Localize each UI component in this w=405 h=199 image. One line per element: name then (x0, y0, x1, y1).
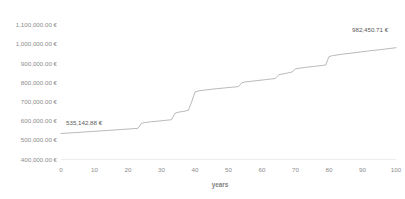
y-tick-label: 900,000.00 € (21, 60, 58, 67)
x-tick-label: 100 (391, 166, 402, 173)
end-value-label: 982,450.71 € (352, 26, 389, 33)
x-tick-label: 30 (158, 166, 165, 173)
start-value-label: 535,142.88 € (66, 119, 103, 126)
y-tick-label: 600,000.00 € (21, 117, 58, 124)
x-tick-label: 80 (326, 166, 333, 173)
x-tick-label: 10 (91, 166, 98, 173)
y-tick-label: 500,000.00 € (21, 136, 58, 143)
x-tick-label: 60 (259, 166, 266, 173)
x-tick-label: 70 (292, 166, 299, 173)
y-tick-label: 800,000.00 € (21, 79, 58, 86)
y-tick-label: 700,000.00 € (21, 98, 58, 105)
x-tick-label: 20 (125, 166, 132, 173)
y-tick-label: 400,000.00 € (21, 156, 58, 163)
x-axis-title: years (212, 181, 229, 189)
chart-container: 1,100,000.00 € 1,000,000.00 € 900,000.00… (0, 0, 405, 199)
y-tick-label: 1,000,000.00 € (16, 40, 58, 47)
x-tick-label: 50 (225, 166, 232, 173)
data-series-line (61, 48, 396, 134)
y-axis-tick-labels: 1,100,000.00 € 1,000,000.00 € 900,000.00… (16, 21, 58, 162)
x-tick-label: 90 (359, 166, 366, 173)
x-axis-tick-labels: 0 10 20 30 40 50 60 70 80 90 100 (59, 166, 401, 173)
x-tick-label: 0 (59, 166, 63, 173)
line-chart: 1,100,000.00 € 1,000,000.00 € 900,000.00… (0, 0, 405, 199)
x-tick-label: 40 (192, 166, 199, 173)
y-tick-label: 1,100,000.00 € (16, 21, 58, 28)
